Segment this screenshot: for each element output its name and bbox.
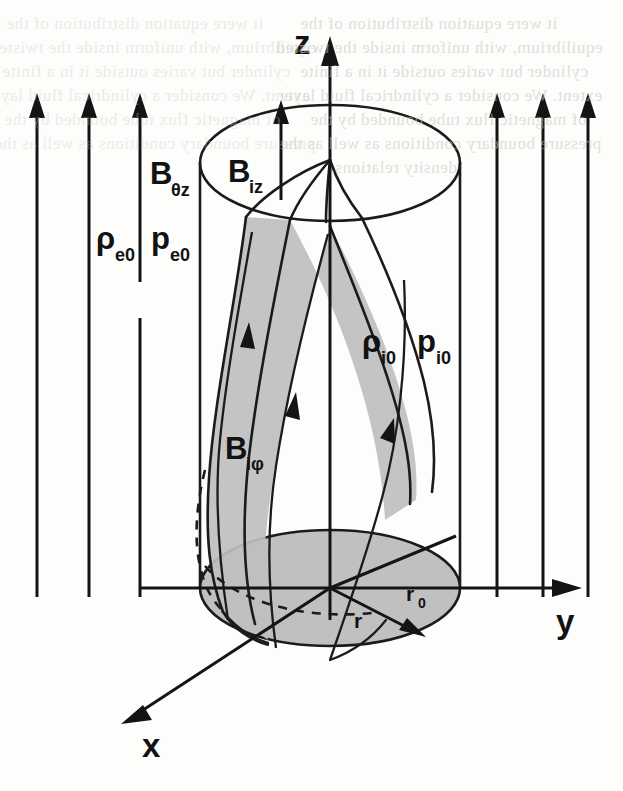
figure-root: it were equation distribution of the equ… xyxy=(0,0,623,791)
label-p-i0-sub: i0 xyxy=(436,348,451,368)
label-p-i0-base: p xyxy=(417,324,436,359)
external-field-arrows-left xyxy=(29,93,148,597)
label-axis-z: z xyxy=(294,24,311,61)
external-field-arrow-right-3 xyxy=(580,93,596,597)
external-field-arrow-left-1 xyxy=(29,93,45,597)
label-r0-base: r xyxy=(406,582,414,605)
external-field-arrow-right-2 xyxy=(535,93,551,597)
label-b-iphi-base: B xyxy=(225,431,247,466)
label-rho-i0-sub: i0 xyxy=(381,348,396,368)
external-field-arrows-right xyxy=(489,93,596,597)
label-b-iz-base: B xyxy=(228,154,250,189)
label-p-e0-sub: e0 xyxy=(170,245,190,265)
external-field-arrow-left-3 xyxy=(132,93,148,597)
axis-z-arrowhead xyxy=(321,36,339,66)
external-field-arrow-left-2 xyxy=(81,93,97,597)
label-b-ez-base: B xyxy=(150,156,172,191)
label-rho-i0-base: ρ xyxy=(362,324,381,359)
flux-tube-diagram: B θz B iz ρ e0 p e0 ρ i0 p i0 B iφ xyxy=(0,0,623,791)
diagram-labels: B θz B iz ρ e0 p e0 ρ i0 p i0 B iφ xyxy=(96,24,575,764)
label-axis-y: y xyxy=(556,603,575,640)
label-rho-e0-sub: e0 xyxy=(115,245,135,265)
label-rho-e0-base: ρ xyxy=(96,221,115,256)
label-b-iphi-sub: iφ xyxy=(246,454,264,474)
label-b-ez-sub: θz xyxy=(171,180,190,200)
b-iz-arrow xyxy=(273,100,289,200)
axis-y-arrowhead xyxy=(552,579,582,597)
label-axis-x: x xyxy=(142,727,161,764)
label-r: r xyxy=(354,609,362,632)
flux-tube-mouth-right-edge xyxy=(330,160,362,218)
label-b-iz-sub: iz xyxy=(249,177,263,197)
label-p-e0-base: p xyxy=(151,221,170,256)
external-field-arrow-right-1 xyxy=(489,93,505,597)
label-r0-sub: 0 xyxy=(418,595,426,611)
